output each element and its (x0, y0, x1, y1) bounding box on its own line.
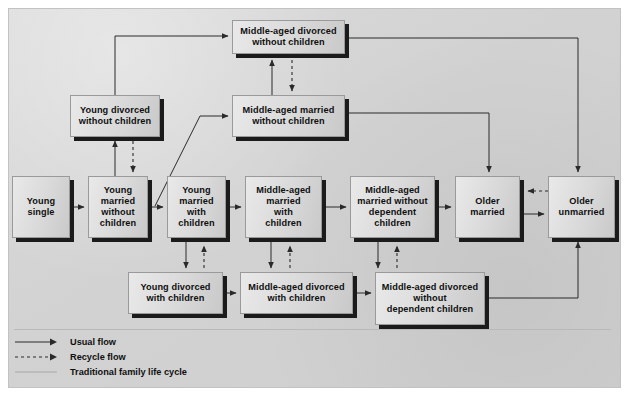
node-young_mar_child[interactable]: Youngmarriedwithchildren (167, 176, 226, 238)
node-older_unmarried[interactable]: Olderunmarried (548, 176, 615, 238)
legend-label-usual: Usual flow (70, 337, 116, 347)
node-young_single[interactable]: Youngsingle (12, 176, 70, 238)
node-mid_mar_wo_child[interactable]: Middle-aged marriedwithout children (232, 95, 345, 137)
recycle-flow-icon (14, 352, 62, 362)
node-mid_div_wo_dep[interactable]: Middle-aged divorcedwithoutdependent chi… (375, 272, 485, 325)
node-mid_div_wo_child[interactable]: Middle-aged divorcedwithout children (232, 20, 345, 54)
legend: Usual flow Recycle flow Traditional fami… (14, 334, 314, 379)
legend-item-traditional: Traditional family life cycle (14, 364, 314, 379)
node-label: Youngmarriedwithoutchildren (97, 185, 140, 230)
node-mid_div_child[interactable]: Middle-aged divorcedwith children (240, 272, 353, 314)
traditional-cycle-icon (14, 367, 62, 377)
legend-label-recycle: Recycle flow (70, 352, 126, 362)
node-label: Young divorcedwithout children (76, 105, 155, 127)
node-young_mar_wo_child[interactable]: Youngmarriedwithoutchildren (88, 176, 148, 238)
legend-label-traditional: Traditional family life cycle (70, 367, 187, 377)
usual-flow-icon (14, 337, 62, 347)
node-label: Middle-aged divorcedwith children (245, 282, 347, 304)
node-label: Middle-aged divorcedwithout children (237, 26, 339, 48)
node-label: Middle-agedmarried withoutdependentchild… (354, 185, 430, 230)
node-mid_mar_child[interactable]: Middle-agedmarriedwithchildren (245, 176, 322, 238)
node-mid_mar_wo_dep[interactable]: Middle-agedmarried withoutdependentchild… (350, 176, 435, 238)
node-label: Young divorcedwith children (137, 282, 213, 304)
diagram-canvas: Middle-aged divorcedwithout childrenYoun… (0, 0, 627, 394)
node-young_div_child[interactable]: Young divorcedwith children (128, 272, 223, 314)
node-label: Middle-aged divorcedwithoutdependent chi… (379, 282, 481, 316)
node-young_div_wo_child[interactable]: Young divorcedwithout children (70, 95, 160, 137)
node-label: Oldermarried (467, 196, 507, 218)
legend-item-recycle: Recycle flow (14, 349, 314, 364)
legend-divider (14, 329, 611, 330)
node-label: Youngsingle (24, 196, 58, 218)
node-label: Middle-agedmarriedwithchildren (253, 185, 314, 230)
node-label: Olderunmarried (556, 196, 608, 218)
legend-item-usual: Usual flow (14, 334, 314, 349)
node-older_married[interactable]: Oldermarried (455, 176, 520, 238)
node-label: Youngmarriedwithchildren (175, 185, 218, 230)
node-label: Middle-aged marriedwithout children (240, 105, 338, 127)
